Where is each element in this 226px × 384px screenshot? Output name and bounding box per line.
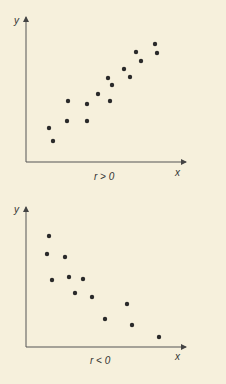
x-axis-label: x [174,167,181,178]
data-point [67,275,71,279]
data-point [50,278,54,282]
chart-caption: r > 0 [94,171,115,182]
data-point [128,75,132,79]
figure: y x r > 0 y x r < 0 [0,0,226,384]
data-point [139,59,143,63]
data-point [155,51,159,55]
data-point [47,234,51,238]
data-point [90,295,94,299]
data-point [51,139,55,143]
chart-positive: y x r > 0 [13,15,186,182]
data-point [96,92,100,96]
data-points [45,234,161,339]
data-point [73,291,77,295]
data-point [45,252,49,256]
data-point [125,302,129,306]
y-axis-label: y [13,204,20,215]
data-points [47,42,159,143]
data-point [134,50,138,54]
chart-caption: r < 0 [90,355,111,366]
x-axis-label: x [174,351,181,362]
data-point [66,99,70,103]
data-point [110,83,114,87]
data-point [85,119,89,123]
data-point [157,335,161,339]
data-point [81,277,85,281]
data-point [106,76,110,80]
data-point [65,119,69,123]
y-axis-label: y [13,15,20,26]
data-point [153,42,157,46]
data-point [47,126,51,130]
data-point [103,317,107,321]
data-point [85,102,89,106]
data-point [63,255,67,259]
data-point [130,323,134,327]
data-point [108,99,112,103]
chart-negative: y x r < 0 [13,204,186,366]
data-point [122,67,126,71]
